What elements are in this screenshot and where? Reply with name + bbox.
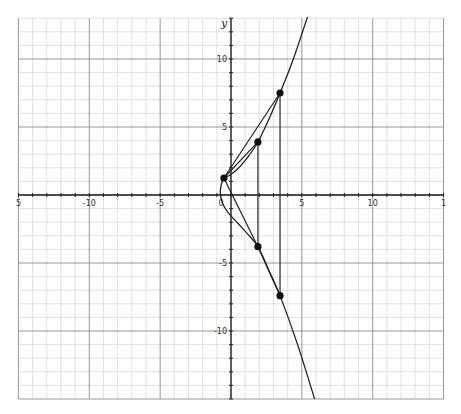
x-tick-label: 10	[368, 199, 378, 208]
chord-line	[224, 93, 280, 178]
data-point	[220, 174, 227, 181]
chord-segments	[224, 93, 280, 296]
chart: 5-10-505101105-5-10 y	[0, 0, 461, 414]
x-tick-label: 1	[441, 199, 446, 208]
y-axis-label: y	[220, 17, 228, 30]
x-tick-label: -5	[156, 199, 164, 208]
data-point	[254, 138, 261, 145]
y-tick-label: -10	[214, 327, 227, 336]
y-tick-label: 5	[222, 123, 227, 132]
data-point	[276, 292, 283, 299]
x-tick-label: 5	[299, 199, 304, 208]
x-tick-label: 5	[16, 199, 21, 208]
data-point	[254, 243, 261, 250]
data-points	[220, 89, 283, 299]
y-tick-label: 10	[217, 55, 227, 64]
x-tick-label: -10	[83, 199, 96, 208]
chord-line	[224, 178, 258, 247]
y-tick-label: -5	[219, 259, 227, 268]
data-point	[276, 89, 283, 96]
chord-line	[224, 142, 258, 178]
